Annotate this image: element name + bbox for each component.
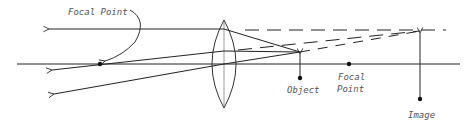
label-focal-point-right-line1: Focal (338, 72, 365, 82)
image-base-dot (418, 97, 422, 101)
ray-parallel (224, 29, 300, 52)
virtual-ray-middle (238, 31, 420, 50)
label-image: Image (408, 110, 435, 120)
focal-point-right-dot (347, 62, 351, 66)
object-base-dot (298, 76, 302, 80)
label-object: Object (287, 85, 320, 95)
optics-diagram: Focal Point Object Focal Point Image (0, 0, 475, 126)
label-focal-point-left: Focal Point (68, 7, 128, 17)
virtual-ray-lower (300, 31, 420, 52)
ray-focal-out (52, 51, 224, 70)
focal-point-left-dot (98, 62, 102, 66)
focal-point-callout-arrow (105, 10, 140, 61)
label-focal-point-right-line2: Point (337, 84, 364, 94)
ray-lower-out (54, 64, 224, 94)
